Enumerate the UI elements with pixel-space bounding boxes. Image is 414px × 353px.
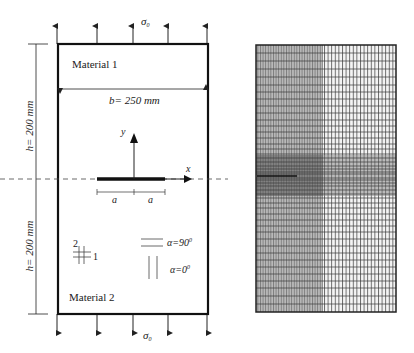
y-axis-arrowhead-icon [130,133,138,143]
width-dimension-label: b= 250 mm [109,94,160,106]
top-load-arrows [57,26,207,44]
fiber-0-label: α=00 [170,264,190,275]
crack-length-dimension [97,189,165,195]
top-stress-label: σ0 [141,15,149,28]
bottom-stress-label: σ0 [143,329,151,342]
y-axis-label: y [120,126,126,137]
height-top-label: h= 200 mm [23,101,35,152]
material-axis-2-label: 2 [73,238,78,249]
material-axis-1-label: 1 [93,251,98,262]
specimen-diagram: σ0 σ0 Material 1 Material 2 b= 250 mm h=… [0,15,228,342]
crack-half-left-label: a [112,194,117,205]
x-axis-label: x [185,163,191,174]
figure-canvas: σ0 σ0 Material 1 Material 2 b= 250 mm h=… [0,0,414,353]
x-axis-arrowhead-icon [184,175,192,183]
material-2-label: Material 2 [69,291,115,303]
finite-element-mesh [256,45,396,312]
crack-half-right-label: a [148,194,153,205]
fiber-90-icon [141,239,163,246]
material-1-label: Material 1 [72,58,118,70]
height-bottom-label: h= 200 mm [23,221,35,272]
fiber-90-label: α=900 [167,237,192,248]
bottom-load-arrows [57,314,207,333]
fiber-0-icon [149,256,157,279]
